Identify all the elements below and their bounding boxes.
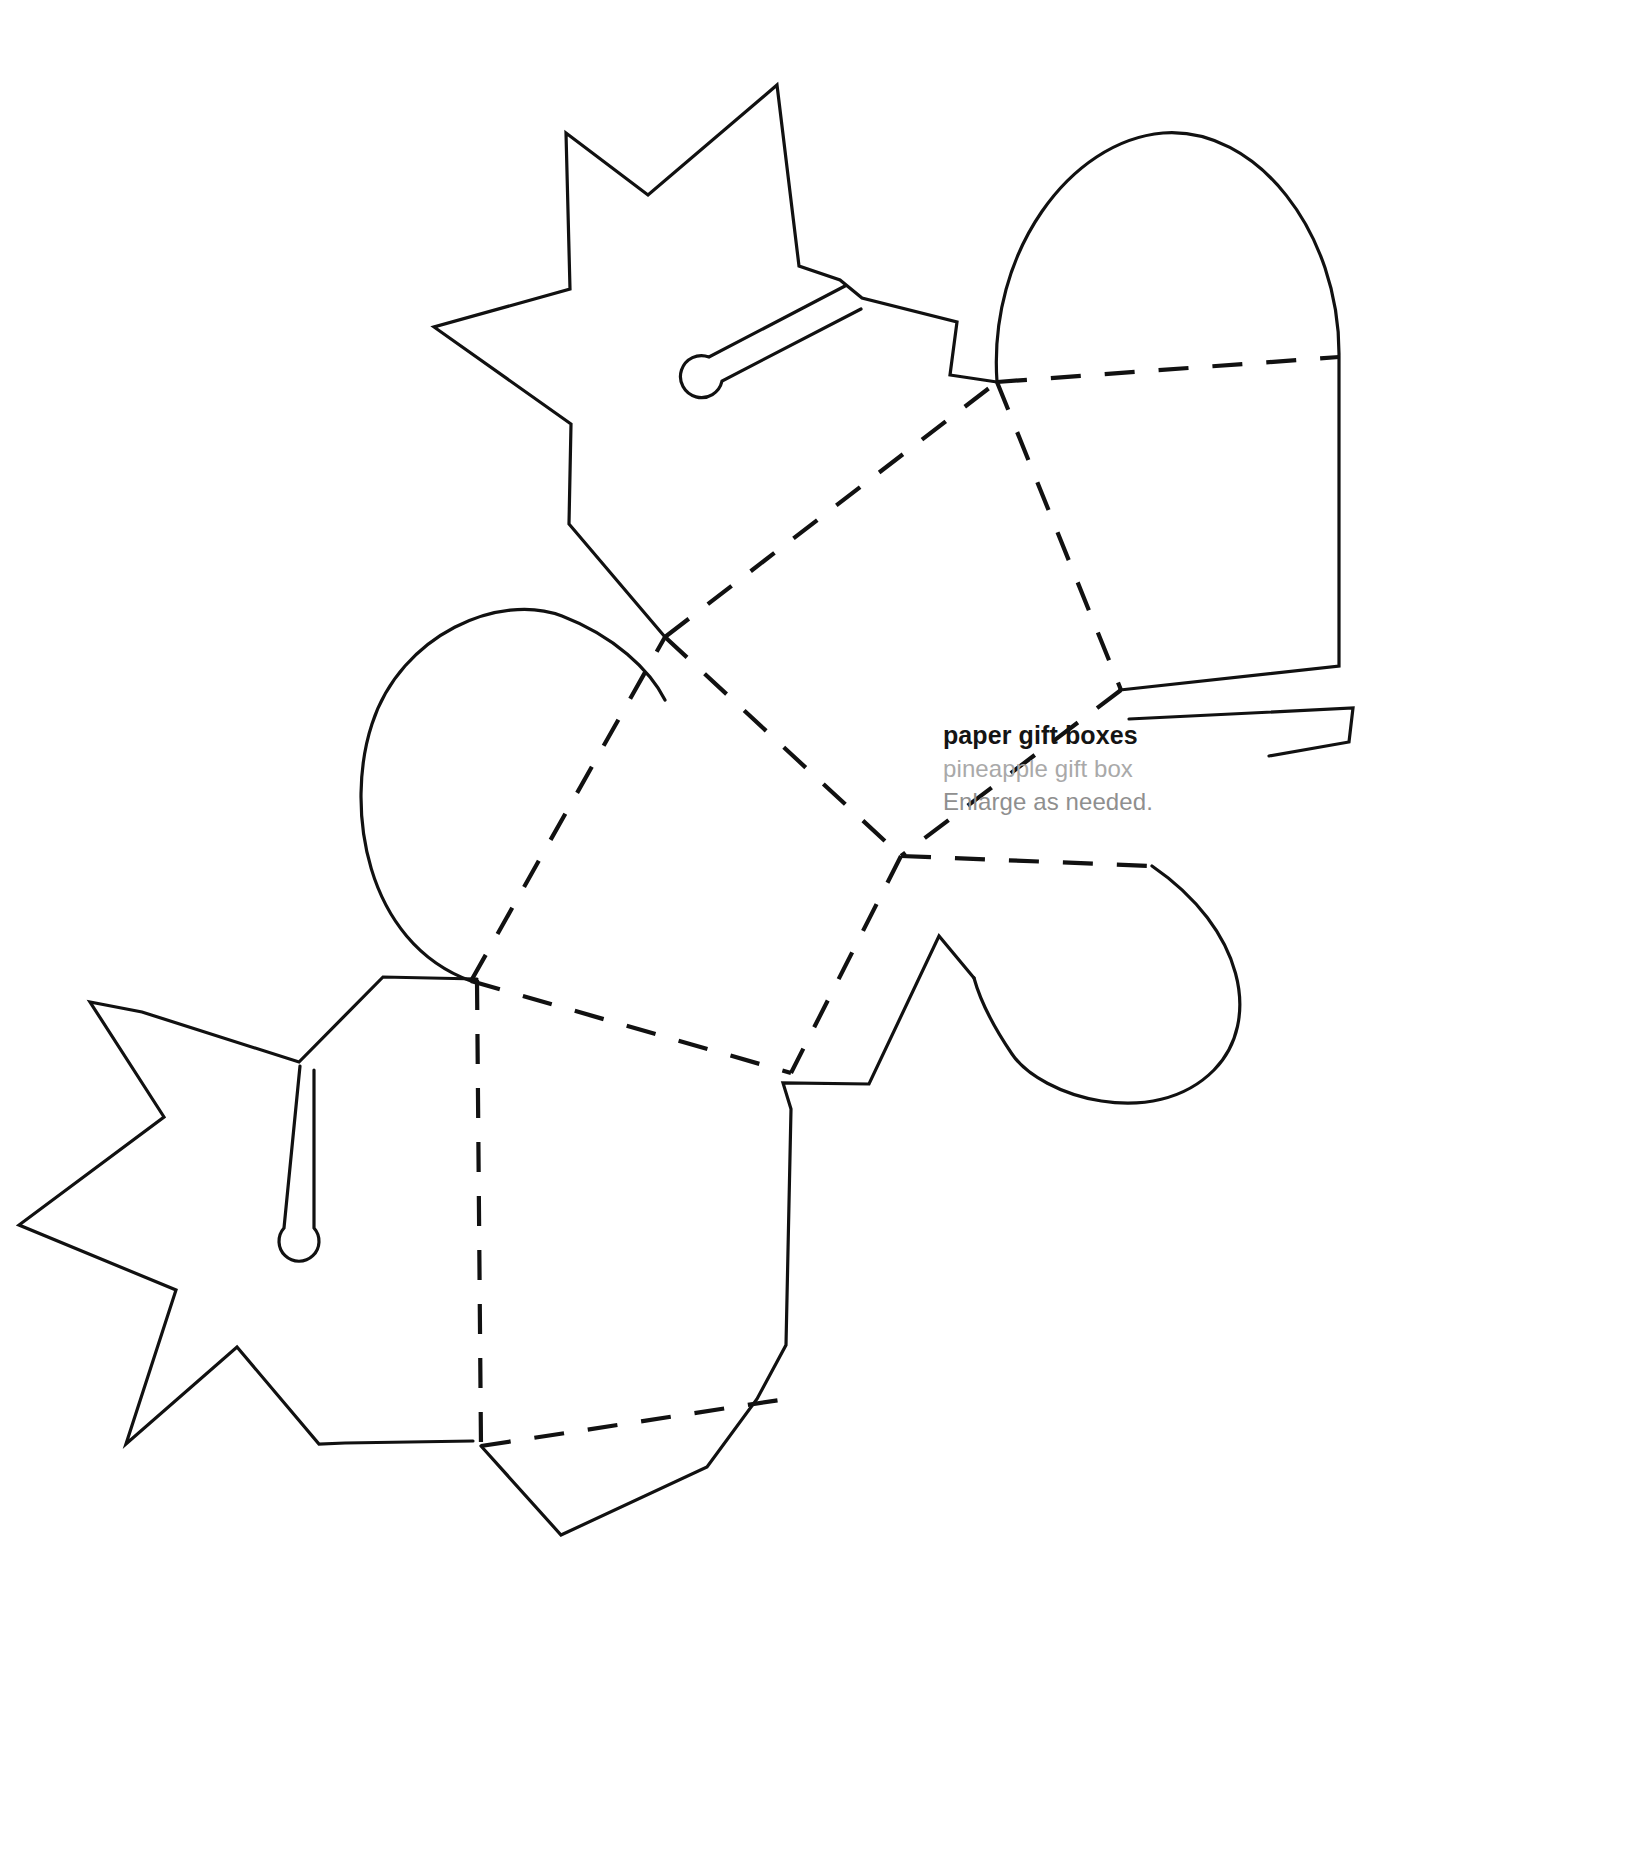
crown-bottom-slot [279, 1066, 319, 1261]
piece-arch-lower-right [974, 866, 1240, 1103]
fold-line-upper-diagonal [665, 382, 997, 637]
template-title: paper gift boxes [943, 718, 1273, 752]
arch-lower-right-outline [974, 866, 1240, 1103]
arch-right-outline [996, 133, 1339, 690]
caption-block: paper gift boxes pineapple gift box Enla… [943, 718, 1273, 818]
piece-arch-left [361, 609, 665, 981]
fold-line-lower-left-diagonal [471, 981, 791, 1073]
piece-crown-top [434, 85, 997, 637]
template-subtitle: pineapple gift box [943, 752, 1273, 785]
fold-line-left-diagonal [471, 637, 665, 981]
arch-left-outline [361, 609, 665, 981]
body-right-contour [481, 936, 974, 1535]
fold-lines-group [471, 357, 1339, 1446]
fold-line-lower-right-diagonal [901, 856, 1152, 866]
piece-crown-bottom [19, 977, 477, 1444]
crown-top-slot [680, 286, 861, 398]
crown-top-outline [434, 85, 997, 637]
piece-body-right-contour [481, 936, 974, 1535]
fold-line-lower-center-diagonal [791, 856, 901, 1073]
piece-arch-right [996, 133, 1353, 756]
gift-box-template-diagram [0, 0, 1638, 1867]
template-note: Enlarge as needed. [943, 785, 1273, 818]
template-page: paper gift boxes pineapple gift box Enla… [0, 0, 1638, 1867]
crown-bottom-outline [19, 977, 477, 1444]
fold-line-right-diagonal [997, 382, 1121, 690]
fold-line-center-diagonal [665, 637, 901, 856]
fold-line-vertical [477, 980, 481, 1446]
fold-line-top-horizontal [997, 357, 1339, 382]
